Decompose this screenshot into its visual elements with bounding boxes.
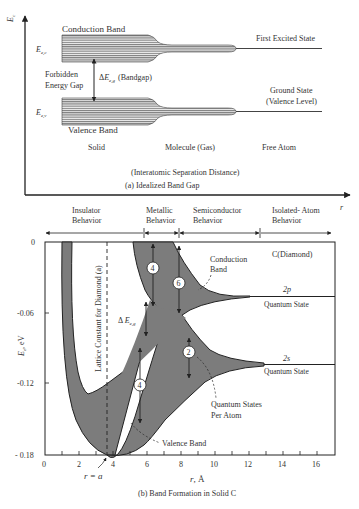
r-eq-a-pointer — [98, 458, 106, 468]
svg-text:16: 16 — [312, 460, 320, 469]
state-2s-label: 2s — [283, 354, 290, 363]
valence-band-bars — [62, 98, 236, 125]
conduction-band-label-b-2: Band — [210, 265, 227, 274]
x-axis-label-a: r — [340, 203, 344, 212]
svg-text:14: 14 — [278, 460, 286, 469]
y-tick-012: -0.12 — [17, 379, 34, 388]
circle-label-4-bottom: 4 — [134, 379, 146, 391]
ground-state-label-1: Ground State — [270, 86, 313, 95]
behavior-isolated-1: Isolated- Atom — [272, 206, 321, 215]
behavior-insulator-1: Insulator — [72, 206, 101, 215]
svg-text:2: 2 — [77, 460, 81, 469]
y-tick-006: -0.06 — [17, 309, 34, 318]
panel-a: Ec r Conduction Band Ee,c Ee,v Forbidden… — [6, 14, 350, 212]
svg-text:8: 8 — [179, 460, 183, 469]
x-tick-labels-b: 0 2 4 6 8 10 12 14 16 — [42, 460, 320, 469]
bandgap-label: ΔEe,g(Bandgap) — [99, 73, 152, 84]
y-tick-018: - 0.18 — [15, 451, 34, 460]
svg-text:0: 0 — [42, 460, 46, 469]
caption-b: (b) Band Formation in Solid C — [138, 489, 236, 498]
panel-b: Insulator Behavior Metallic Behavior Sem… — [15, 206, 335, 498]
behavior-isolated-2: Behavior — [272, 216, 302, 225]
quantum-state-label-2s: Quantum State — [264, 367, 309, 376]
circle-label-2: 2 — [183, 346, 195, 358]
svg-text:10: 10 — [210, 460, 218, 469]
r-eq-a-label: r = a — [84, 471, 103, 481]
conduction-band-label-a: Conduction Band — [62, 24, 126, 34]
behavior-range-arrows — [46, 228, 331, 238]
caption-a: (a) Idealized Band Gap — [125, 181, 199, 190]
svg-text:4: 4 — [151, 264, 155, 273]
region-molecule: Molecule (Gas) — [165, 143, 215, 152]
y-axis-label-b: Ee, eV — [17, 335, 27, 357]
svg-text:6: 6 — [145, 460, 149, 469]
first-excited-label: First Excited State — [256, 34, 316, 43]
svg-text:2: 2 — [187, 348, 191, 357]
valence-band-label-b: Valence Band — [162, 439, 206, 448]
y-axis-label-a: Ec — [6, 14, 16, 23]
valence-band-label-a: Valence Band — [68, 125, 118, 135]
conduction-band-label-b-1: Conduction — [210, 255, 247, 264]
material-label: C(Diamond) — [272, 250, 313, 259]
behavior-metallic-1: Metallic — [146, 206, 173, 215]
ground-state-label-2: (Valence Level) — [266, 97, 317, 106]
y-axis-ticks-b — [45, 313, 49, 383]
ev-label: Ee,v — [35, 108, 47, 119]
lattice-constant-label: Lattice Constant for Diamond (a) — [94, 265, 103, 372]
behavior-insulator-2: Behavior — [72, 216, 102, 225]
y-tick-0: 0 — [31, 238, 35, 247]
quantum-states-label-2: Per Atom — [211, 411, 242, 420]
conduction-band-bars — [62, 35, 236, 62]
state-2p-label: 2p — [283, 285, 291, 294]
region-solid: Solid — [88, 143, 105, 152]
behavior-semiconductor-2: Behavior — [193, 216, 223, 225]
forbidden-gap-label-1: Forbidden — [45, 70, 78, 79]
svg-text:12: 12 — [244, 460, 252, 469]
region-free-atom: Free Atom — [262, 143, 297, 152]
circle-label-6: 6 — [173, 277, 185, 289]
behavior-semiconductor-1: Semiconductor — [193, 206, 242, 215]
band-gap-figure: Ec r Conduction Band Ee,c Ee,v Forbidden… — [0, 0, 359, 509]
svg-text:4: 4 — [138, 381, 142, 390]
delta-e-label: Δ Ee,g — [118, 316, 136, 327]
quantum-states-label-1: Quantum States — [211, 400, 262, 409]
forbidden-gap-label-2: Energy Gap — [45, 81, 83, 90]
circle-label-4-top: 4 — [147, 262, 159, 274]
ec-label: Ee,c — [35, 45, 47, 56]
axis-caption-a: (Interatomic Separation Distance) — [131, 168, 240, 177]
svg-text:6: 6 — [177, 279, 181, 288]
quantum-state-label-2p: Quantum State — [264, 300, 309, 309]
x-axis-label-b: r, Å — [190, 474, 205, 484]
behavior-metallic-2: Behavior — [146, 216, 176, 225]
svg-text:4: 4 — [111, 460, 115, 469]
